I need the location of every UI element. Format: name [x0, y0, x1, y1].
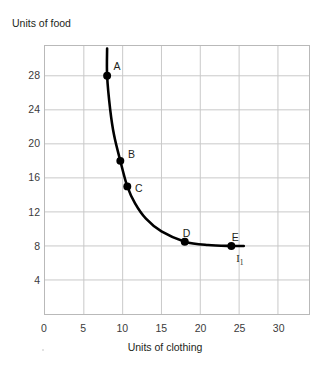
point-label-b: B: [128, 149, 135, 160]
point-label-c: C: [135, 183, 143, 194]
x-axis-title: Units of clothing: [0, 341, 330, 353]
point-label-d: D: [183, 228, 191, 239]
x-axis-tick-labels: 051015202530: [0, 0, 330, 370]
point-label-a: A: [114, 61, 121, 72]
curve-label: I1: [236, 253, 243, 268]
curve-label-subscript: 1: [240, 259, 244, 268]
x-tick-label: 15: [148, 323, 174, 334]
x-tick-label: 10: [109, 323, 135, 334]
x-tick-label: 30: [266, 323, 292, 334]
point-label-e: E: [232, 232, 239, 243]
x-tick-label: 20: [187, 323, 213, 334]
chart-figure: Units of food 481216202428 051015202530 …: [0, 0, 330, 370]
x-tick-label: 5: [70, 323, 96, 334]
x-tick-label: 0: [31, 323, 57, 334]
x-tick-label: 25: [227, 323, 253, 334]
